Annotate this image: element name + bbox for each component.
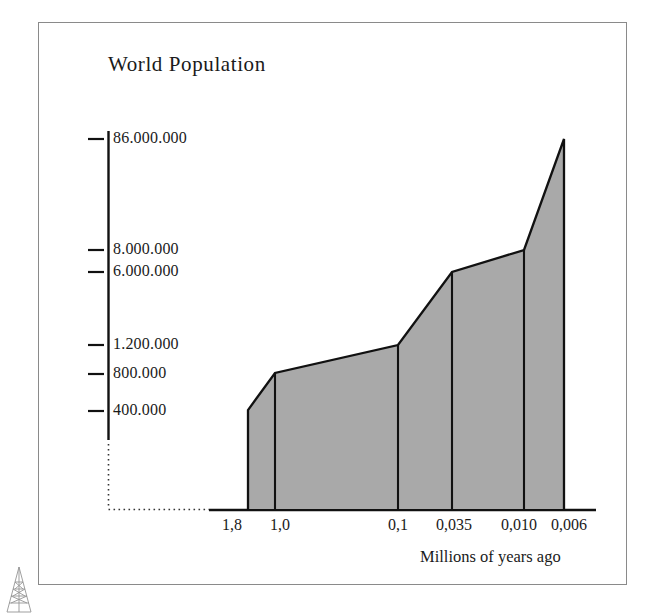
y-tick-label-86000000: 86.000.000: [113, 129, 187, 147]
scan-artifact-icon: [2, 566, 36, 613]
x-tick-label-0-006: 0,006: [541, 516, 597, 534]
x-tick-label-0-1: 0,1: [378, 516, 418, 534]
y-tick-label-1200000: 1.200.000: [113, 335, 179, 353]
x-tick-label-1-8: 1,8: [212, 516, 252, 534]
y-tick-label-8000000: 8.000.000: [113, 240, 179, 258]
y-tick-label-800000: 800.000: [113, 364, 166, 382]
x-tick-label-0-010: 0,010: [491, 516, 547, 534]
x-tick-label-0-035: 0,035: [426, 516, 482, 534]
y-tick-label-400000: 400.000: [113, 401, 166, 419]
y-tick-label-6000000: 6.000.000: [113, 262, 179, 280]
x-tick-label-1-0: 1,0: [260, 516, 300, 534]
x-axis-caption: Millions of years ago: [420, 547, 561, 567]
population-area-fill: [248, 139, 564, 509]
